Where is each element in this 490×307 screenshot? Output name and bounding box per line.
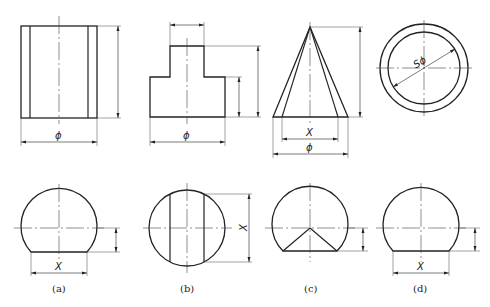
- caption-b: (b): [180, 283, 194, 294]
- caption-a: (a): [52, 283, 66, 294]
- panel-d-side-view: X (d): [376, 183, 480, 294]
- panel-d-front-view: Sϕ: [376, 20, 472, 116]
- panel-a-side-view: X (a): [14, 184, 120, 294]
- panel-a-front-view: ϕ: [21, 16, 121, 146]
- x-label: X: [54, 261, 63, 272]
- x-label: X: [305, 127, 314, 138]
- x-label: X: [238, 223, 249, 232]
- panel-b-side-view: X (b): [143, 183, 252, 294]
- panel-c-front-view: X ϕ: [273, 22, 363, 158]
- diameter-symbol: ϕ: [55, 130, 62, 141]
- caption-c: (c): [304, 283, 318, 294]
- panel-b-front-view: ϕ: [150, 22, 261, 146]
- technical-drawing: ϕ ϕ X ϕ: [0, 0, 490, 307]
- diameter-symbol: ϕ: [183, 130, 190, 141]
- x-label: X: [416, 261, 425, 272]
- diameter-symbol: ϕ: [306, 142, 313, 153]
- panel-c-side-view: (c): [265, 183, 368, 294]
- caption-d: (d): [413, 283, 427, 294]
